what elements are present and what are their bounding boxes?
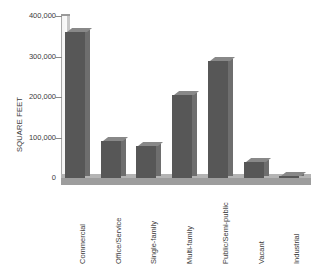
y-axis-tick-mark bbox=[55, 57, 62, 58]
y-axis-tick-label: 0 bbox=[10, 174, 56, 182]
bar-slot bbox=[65, 16, 91, 178]
bar[interactable] bbox=[136, 146, 156, 178]
plot-area bbox=[61, 16, 311, 178]
bar[interactable] bbox=[65, 32, 85, 178]
x-axis-category-label: Public/Semi-public bbox=[221, 202, 230, 264]
bar-slot bbox=[279, 16, 305, 178]
plot-floor-front bbox=[61, 178, 311, 185]
bar-slot bbox=[208, 16, 234, 178]
bar-slot bbox=[244, 16, 270, 178]
bar-chart-figure: SQUARE FEET 0100,000200,000300,000400,00… bbox=[0, 0, 323, 269]
x-axis-category-labels: CommercialOffice/ServiceSingle-familyMul… bbox=[61, 186, 311, 268]
y-axis-tick-label: 200,000 bbox=[10, 93, 56, 101]
bar-side-face bbox=[121, 139, 126, 176]
y-axis-tick-label: 100,000 bbox=[10, 134, 56, 142]
y-axis-tick-labels: 0100,000200,000300,000400,000 bbox=[10, 0, 56, 269]
bar-side-face bbox=[85, 30, 90, 176]
bar-top-face bbox=[103, 137, 128, 141]
y-axis-tick-mark bbox=[55, 97, 62, 98]
bar-slot bbox=[172, 16, 198, 178]
x-axis-category-label: Office/Service bbox=[114, 217, 123, 264]
y-axis-tick-mark bbox=[55, 16, 62, 17]
bar[interactable] bbox=[172, 95, 192, 178]
bar-slot bbox=[136, 16, 162, 178]
bar-side-face bbox=[228, 59, 233, 176]
bar-side-face bbox=[264, 160, 269, 176]
y-axis-tick-label: 300,000 bbox=[10, 53, 56, 61]
x-axis-category-label: Commercial bbox=[78, 224, 87, 264]
x-axis-category-label: Single-family bbox=[149, 221, 158, 264]
bar-side-face bbox=[156, 144, 161, 176]
y-axis-tick-mark bbox=[55, 138, 62, 139]
x-axis-category-label: Vacant bbox=[257, 241, 266, 264]
bar[interactable] bbox=[208, 61, 228, 178]
bar-slot bbox=[101, 16, 127, 178]
bar[interactable] bbox=[101, 141, 121, 178]
bar-top-face bbox=[246, 158, 271, 162]
bar-top-face bbox=[210, 57, 235, 61]
x-axis-category-label: Industrial bbox=[292, 234, 301, 264]
y-axis-tick-label: 400,000 bbox=[10, 12, 56, 20]
x-axis-category-label: Multi-family bbox=[185, 226, 194, 264]
bar[interactable] bbox=[244, 162, 264, 178]
bar-side-face bbox=[192, 93, 197, 176]
